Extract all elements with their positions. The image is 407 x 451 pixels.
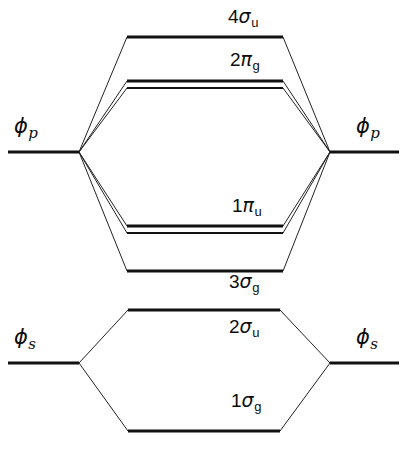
mo-label-2pi-g-symbol: π — [241, 48, 252, 70]
correlation-lines-p-left — [79, 37, 127, 271]
ao-label-phi-s-left-symbol: ϕ — [14, 325, 28, 349]
correlation-line-p-right-2pi-g-b — [283, 88, 330, 152]
mo-label-4sigma-u: 4σu — [228, 7, 258, 29]
mo-label-2pi-g: 2πg — [230, 50, 260, 72]
correlation-line-p-right-2pi-g-a — [283, 81, 330, 152]
correlation-line-p-left-3sigma-g — [79, 152, 127, 271]
mo-label-4sigma-u-subscript: u — [251, 15, 258, 30]
correlation-line-p-left-2pi-g-b — [79, 88, 127, 152]
correlation-line-s-right-2sigma-u — [280, 310, 330, 363]
ao-label-phi-s-left: ϕs — [14, 327, 36, 352]
mo-label-2pi-g-number: 2 — [230, 49, 241, 70]
correlation-line-s-left-2sigma-u — [79, 310, 128, 363]
mo-label-1sigma-g-number: 1 — [231, 390, 242, 411]
mo-label-3sigma-g: 3σg — [229, 272, 259, 294]
ao-label-phi-s-right-symbol: ϕ — [356, 325, 370, 349]
ao-label-phi-p-right: ϕp — [356, 116, 380, 141]
ao-label-phi-p-right-symbol: ϕ — [356, 114, 370, 138]
ao-label-phi-p-left-symbol: ϕ — [14, 114, 28, 138]
mo-label-2sigma-u-symbol: σ — [240, 315, 252, 337]
ao-label-phi-p-left-subscript: p — [28, 124, 38, 142]
mo-diagram: 4σu 2πg 1πu 3σg 2σu 1σg ϕp ϕp ϕs ϕs — [0, 0, 407, 451]
ao-label-phi-p-right-subscript: p — [370, 124, 380, 142]
correlation-lines-p-right — [283, 37, 330, 271]
correlation-line-p-left-4sigma-u — [79, 37, 127, 152]
ao-label-phi-p-left: ϕp — [14, 116, 38, 141]
mo-label-2pi-g-subscript: g — [253, 58, 260, 73]
mo-label-1sigma-g-symbol: σ — [242, 389, 254, 411]
ao-label-phi-s-left-subscript: s — [28, 335, 36, 353]
correlation-line-s-right-1sigma-g — [280, 363, 330, 431]
correlation-line-p-right-4sigma-u — [283, 37, 330, 152]
mo-label-1pi-u-number: 1 — [232, 195, 243, 216]
correlation-line-p-right-1pi-u-b — [283, 152, 330, 233]
mo-label-3sigma-g-number: 3 — [229, 271, 240, 292]
mo-label-2sigma-u-number: 2 — [229, 316, 240, 337]
correlation-line-p-right-1pi-u-a — [283, 152, 330, 226]
mo-label-4sigma-u-number: 4 — [228, 6, 239, 27]
correlation-line-p-left-1pi-u-a — [79, 152, 127, 226]
mo-label-2sigma-u: 2σu — [229, 317, 259, 339]
atomic-orbital-levels — [8, 152, 399, 363]
correlation-line-p-left-1pi-u-b — [79, 152, 127, 233]
molecular-orbital-levels — [127, 37, 283, 431]
correlation-lines-s — [79, 310, 330, 431]
mo-label-3sigma-g-subscript: g — [252, 280, 259, 295]
mo-label-1pi-u: 1πu — [232, 196, 262, 218]
mo-diagram-canvas — [0, 0, 407, 451]
mo-label-1sigma-g: 1σg — [231, 391, 261, 413]
mo-label-1sigma-g-subscript: g — [254, 399, 261, 414]
ao-label-phi-s-right: ϕs — [356, 327, 378, 352]
ao-label-phi-s-right-subscript: s — [370, 335, 378, 353]
mo-label-2sigma-u-subscript: u — [252, 325, 259, 340]
mo-label-1pi-u-symbol: π — [243, 194, 254, 216]
correlation-line-s-left-1sigma-g — [79, 363, 128, 431]
correlation-line-p-right-3sigma-g — [283, 152, 330, 271]
mo-label-4sigma-u-symbol: σ — [239, 5, 251, 27]
mo-label-1pi-u-subscript: u — [255, 204, 262, 219]
correlation-line-p-left-2pi-g-a — [79, 81, 127, 152]
mo-label-3sigma-g-symbol: σ — [240, 270, 252, 292]
